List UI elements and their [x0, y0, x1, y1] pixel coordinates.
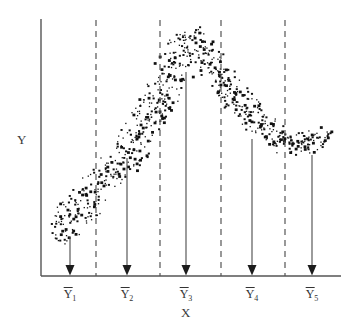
scatter-point: [182, 36, 184, 38]
scatter-point: [174, 75, 175, 76]
scatter-point: [189, 38, 190, 39]
scatter-point: [144, 99, 145, 100]
scatter-point: [56, 216, 57, 217]
scatter-point: [125, 154, 126, 155]
scatter-point: [81, 194, 84, 197]
scatter-point: [287, 137, 288, 138]
scatter-point: [194, 37, 197, 40]
scatter-point: [191, 39, 193, 41]
scatter-point: [251, 115, 252, 116]
scatter-point: [182, 64, 183, 65]
scatter-point: [91, 213, 92, 214]
scatter-point: [317, 149, 318, 150]
scatter-point: [110, 156, 112, 158]
scatter-point: [151, 102, 152, 103]
scatter-point: [183, 40, 184, 41]
group-index-subscript: 1: [72, 294, 76, 303]
scatter-point: [91, 219, 92, 220]
scatter-point: [169, 39, 170, 40]
scatter-point: [84, 207, 85, 208]
scatter-point: [172, 87, 173, 88]
scatter-point: [291, 151, 292, 152]
scatter-point: [219, 84, 222, 87]
scatter-point: [168, 66, 170, 68]
scatter-point: [171, 62, 173, 64]
scatter-point: [152, 135, 153, 136]
scatter-point: [165, 105, 167, 107]
scatter-point: [159, 92, 161, 94]
scatter-point: [272, 138, 273, 139]
scatter-point: [219, 89, 220, 90]
scatter-point: [116, 178, 117, 179]
scatter-point: [71, 221, 72, 222]
scatter-point: [227, 77, 229, 79]
scatter-point: [184, 32, 185, 33]
scatter-point: [129, 129, 131, 131]
scatter-point: [86, 222, 87, 223]
scatter-point: [320, 142, 321, 143]
scatter-point: [203, 48, 206, 51]
scatter-point: [263, 123, 264, 124]
scatter-point: [98, 199, 100, 201]
scatter-point: [143, 131, 144, 132]
scatter-point: [244, 118, 246, 120]
scatter-point: [178, 94, 179, 95]
scatter-point: [248, 98, 249, 99]
scatter-point: [110, 174, 111, 175]
scatter-point: [125, 174, 126, 175]
scatter-point: [117, 141, 118, 142]
scatter-point: [279, 141, 281, 143]
scatter-point: [304, 141, 305, 142]
scatter-point: [77, 213, 78, 214]
scatter-point-cloud: [51, 26, 333, 244]
scatter-point: [295, 148, 298, 151]
scatter-point: [100, 189, 101, 190]
scatter-point: [182, 35, 183, 36]
scatter-point: [149, 119, 150, 120]
scatter-point: [97, 189, 98, 190]
scatter-point: [235, 108, 238, 111]
scatter-point: [93, 203, 96, 206]
scatter-point: [106, 184, 107, 185]
scatter-point: [236, 88, 238, 90]
scatter-point: [232, 101, 234, 103]
scatter-point: [162, 100, 164, 102]
scatter-point: [133, 165, 134, 166]
scatter-point: [165, 116, 167, 118]
scatter-point: [148, 153, 150, 155]
scatter-point: [72, 232, 74, 234]
scatter-point: [164, 66, 166, 68]
axis-lines: [41, 19, 341, 276]
scatter-point: [238, 105, 239, 106]
scatter-point: [116, 148, 117, 149]
scatter-point: [121, 129, 123, 131]
scatter-point: [189, 52, 191, 54]
scatter-point: [223, 71, 225, 73]
scatter-point: [195, 29, 197, 31]
group-mean-arrows: [66, 72, 317, 276]
scatter-point: [60, 223, 62, 225]
scatter-point: [172, 78, 173, 79]
scatter-point: [118, 175, 121, 178]
scatter-point: [123, 157, 125, 159]
scatter-point: [215, 80, 216, 81]
scatter-point: [146, 116, 149, 119]
scatter-point: [123, 168, 126, 171]
scatter-point: [86, 220, 87, 221]
scatter-point: [117, 163, 119, 165]
scatter-point: [87, 207, 88, 208]
scatter-point: [145, 95, 146, 96]
scatter-point: [211, 59, 212, 60]
scatter-point: [80, 200, 81, 201]
scatter-point: [279, 132, 281, 134]
y-bar-symbol: Y: [180, 286, 189, 302]
scatter-point: [139, 105, 141, 107]
scatter-point: [170, 42, 171, 43]
scatter-point: [218, 85, 219, 86]
scatter-point: [161, 117, 164, 120]
scatter-point: [255, 132, 256, 133]
scatter-point: [261, 119, 263, 121]
scatter-point: [157, 81, 158, 82]
scatter-point: [309, 144, 310, 145]
scatter-point: [185, 52, 186, 53]
